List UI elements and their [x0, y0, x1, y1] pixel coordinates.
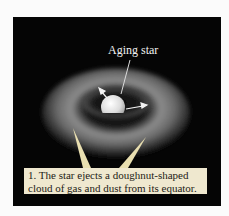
caption-line-1: 1. The star ejects a doughnut-shaped [28, 169, 207, 182]
caption-box: 1. The star ejects a doughnut-shaped clo… [24, 168, 207, 194]
caption-line-2: cloud of gas and dust from its equator. [28, 182, 207, 195]
diagram-panel: Aging star 1. The star ejects a doughnut… [13, 17, 221, 206]
aging-star-label: Aging star [108, 43, 158, 58]
